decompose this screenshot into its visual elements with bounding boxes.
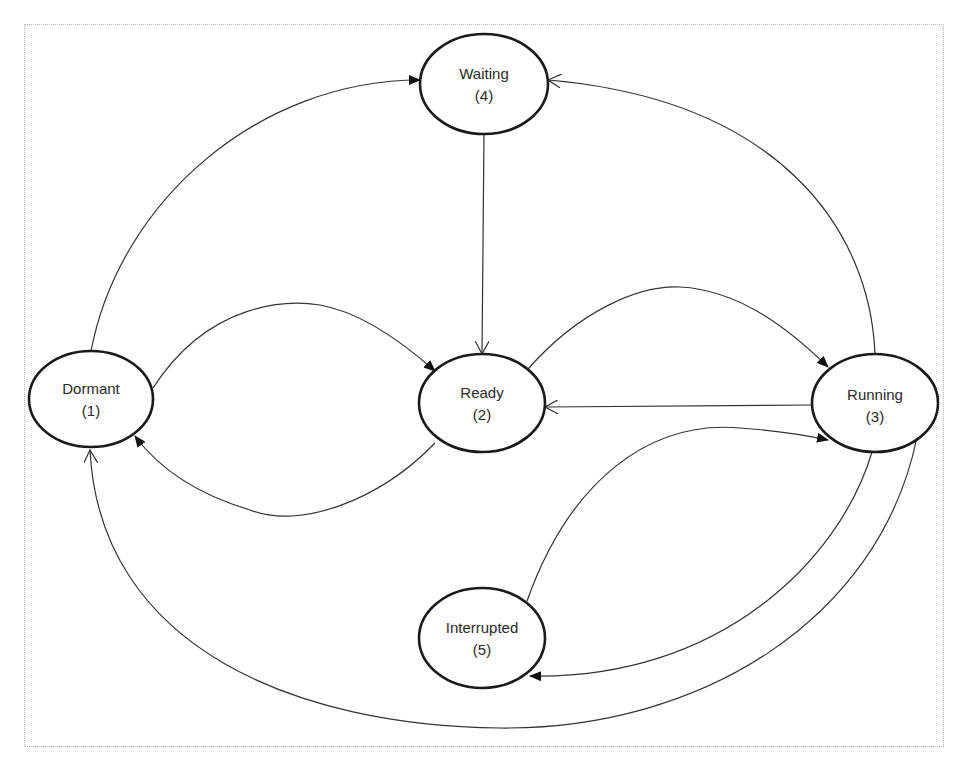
edge-running-to-interrupted[interactable] <box>530 452 872 676</box>
waiting-name-label: Waiting <box>459 65 508 82</box>
waiting-number-label: (4) <box>475 87 493 104</box>
edge-waiting-to-ready[interactable] <box>482 134 484 354</box>
node-ready[interactable]: Ready (2) <box>419 354 545 452</box>
node-dormant[interactable]: Dormant (1) <box>29 351 153 447</box>
state-diagram: Waiting (4) Dormant (1) Ready (2) Runnin… <box>0 0 961 769</box>
edge-interrupted-to-running[interactable] <box>527 427 828 601</box>
interrupted-name-label: Interrupted <box>446 619 519 636</box>
interrupted-number-label: (5) <box>473 641 491 658</box>
edge-dormant-to-waiting[interactable] <box>91 80 420 351</box>
dormant-name-label: Dormant <box>62 380 120 397</box>
edge-ready-to-running[interactable] <box>528 287 828 369</box>
node-waiting[interactable]: Waiting (4) <box>420 34 548 134</box>
node-running[interactable]: Running (3) <box>812 354 938 452</box>
node-interrupted[interactable]: Interrupted (5) <box>419 588 545 688</box>
edge-running-to-waiting[interactable] <box>548 80 875 354</box>
waiting-ellipse <box>420 34 548 134</box>
edge-ready-to-dormant[interactable] <box>135 436 435 516</box>
ready-ellipse <box>419 354 545 452</box>
ready-number-label: (2) <box>473 406 491 423</box>
running-name-label: Running <box>847 386 903 403</box>
edge-running-to-ready[interactable] <box>545 405 812 407</box>
dormant-ellipse <box>29 351 153 447</box>
running-number-label: (3) <box>866 408 884 425</box>
ready-name-label: Ready <box>460 384 504 401</box>
interrupted-ellipse <box>419 588 545 688</box>
running-ellipse <box>812 354 938 452</box>
edge-dormant-to-ready[interactable] <box>153 303 435 388</box>
dormant-number-label: (1) <box>82 402 100 419</box>
